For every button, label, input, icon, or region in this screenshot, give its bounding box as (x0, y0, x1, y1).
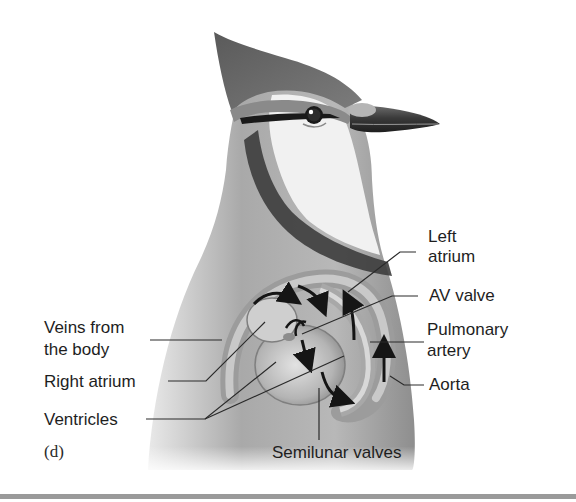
bird-beak (348, 103, 440, 132)
bird-crest (214, 32, 362, 124)
label-left-atrium-line2: atrium (428, 247, 475, 267)
label-pulmonary-artery-line2: artery (427, 341, 470, 361)
label-veins-line2: the body (44, 340, 109, 360)
label-aorta: Aorta (429, 375, 470, 395)
label-veins-line1: Veins from (44, 318, 124, 338)
label-pulmonary-artery-line1: Pulmonary (427, 320, 508, 340)
label-left-atrium-line1: Left (428, 227, 456, 247)
bottom-divider (0, 494, 576, 499)
panel-id-label: (d) (44, 442, 64, 462)
label-semilunar-valves: Semilunar valves (272, 443, 401, 463)
label-right-atrium: Right atrium (44, 372, 136, 392)
figure-panel-d: Left atrium AV valve Pulmonary artery Ao… (0, 0, 576, 502)
label-ventricles: Ventricles (44, 410, 118, 430)
label-av-valve: AV valve (429, 286, 495, 306)
